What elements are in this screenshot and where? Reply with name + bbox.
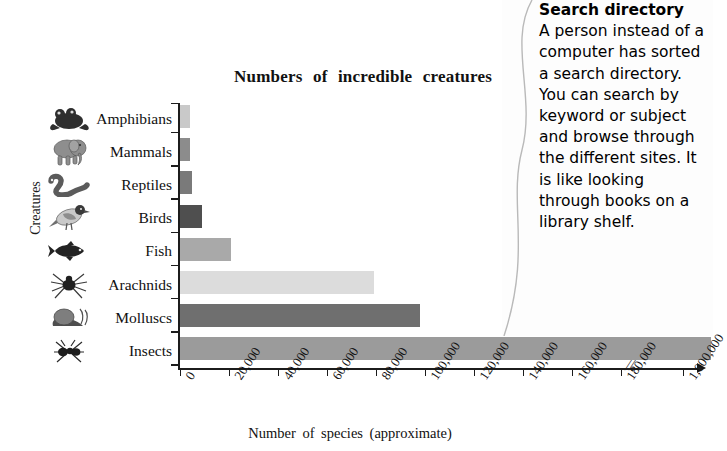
x-axis-tick bbox=[474, 369, 475, 376]
y-axis-tick bbox=[171, 232, 178, 233]
side-note-heading: Search directory bbox=[539, 0, 707, 21]
x-axis-tick bbox=[229, 369, 230, 376]
bar bbox=[180, 271, 374, 294]
y-axis-tick bbox=[171, 364, 178, 365]
bar bbox=[180, 105, 190, 128]
x-axis-tick bbox=[621, 369, 622, 376]
x-axis-tick bbox=[376, 369, 377, 376]
side-note-panel: Search directory A person instead of a c… bbox=[502, 0, 713, 336]
category-label: Molluscs bbox=[82, 302, 172, 333]
x-axis-tick bbox=[278, 369, 279, 376]
bar bbox=[180, 205, 202, 228]
x-axis-tick bbox=[683, 369, 684, 376]
y-axis-tick bbox=[171, 198, 178, 199]
bar bbox=[180, 171, 192, 194]
bar bbox=[180, 138, 190, 161]
category-label: Mammals bbox=[82, 136, 172, 167]
y-axis-tick bbox=[171, 132, 178, 133]
bar bbox=[180, 304, 420, 327]
x-axis-tick bbox=[572, 369, 573, 376]
category-label: Arachnids bbox=[82, 269, 172, 300]
y-axis-tick bbox=[171, 265, 178, 266]
side-note-body: A person instead of a computer has sorte… bbox=[539, 21, 707, 233]
category-label: Reptiles bbox=[82, 169, 172, 200]
category-label: Fish bbox=[82, 236, 172, 267]
x-axis-title: Number of species (approximate) bbox=[150, 425, 550, 442]
category-label: Amphibians bbox=[82, 103, 172, 134]
category-label: Insects bbox=[82, 335, 172, 366]
x-axis-tick-label: 0 bbox=[182, 369, 199, 383]
y-axis-tick bbox=[171, 298, 178, 299]
y-axis-tick bbox=[171, 165, 178, 166]
category-label: Birds bbox=[82, 203, 172, 234]
side-note-text: Search directory A person instead of a c… bbox=[539, 0, 707, 233]
x-axis-tick bbox=[327, 369, 328, 376]
panel-curved-edge-icon bbox=[502, 0, 542, 336]
bar bbox=[180, 238, 231, 261]
x-axis-tick bbox=[523, 369, 524, 376]
y-axis-tick bbox=[171, 103, 178, 104]
x-axis-tick bbox=[425, 369, 426, 376]
x-axis-tick bbox=[180, 369, 181, 376]
y-axis-tick bbox=[171, 331, 178, 332]
